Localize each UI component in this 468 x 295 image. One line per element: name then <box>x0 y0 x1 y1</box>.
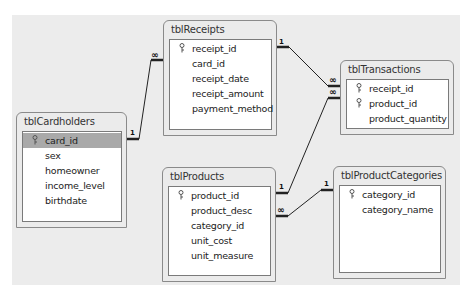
field-list: receipt_id card_id receipt_date receipt_… <box>169 39 272 130</box>
field-receipt-amount[interactable]: receipt_amount <box>170 86 271 101</box>
field-product-desc[interactable]: product_desc <box>169 203 270 218</box>
field-name: product_desc <box>191 205 252 216</box>
field-name: receipt_id <box>192 43 236 54</box>
table-title: tblTransactions <box>348 64 420 75</box>
field-income-level[interactable]: income_level <box>23 178 121 193</box>
field-list: receipt_id product_id product_quantity <box>346 79 449 129</box>
field-category-id[interactable]: category_id <box>169 218 270 233</box>
field-card-id[interactable]: card_id <box>23 133 121 148</box>
field-homeowner[interactable]: homeowner <box>23 163 121 178</box>
field-unit-measure[interactable]: unit_measure <box>169 248 270 263</box>
field-receipt-id[interactable]: receipt_id <box>347 81 448 96</box>
field-name: category_name <box>362 204 433 215</box>
table-title: tblCardholders <box>24 116 95 127</box>
field-payment-method[interactable]: payment_method <box>170 101 271 116</box>
table-receipts[interactable]: tblReceipts receipt_id card_id receipt_d… <box>163 20 277 136</box>
field-name: product_quantity <box>369 113 447 124</box>
field-name: product_id <box>369 98 417 109</box>
primary-key-icon <box>356 83 362 93</box>
table-products[interactable]: tblProducts product_id product_desc cate… <box>162 167 276 282</box>
rel-label-many: ∞ <box>329 89 337 96</box>
primary-key-icon <box>32 135 38 145</box>
field-unit-cost[interactable]: unit_cost <box>169 233 270 248</box>
field-name: payment_method <box>192 103 273 114</box>
rel-label-many: ∞ <box>151 52 159 59</box>
rel-label-one: 1 <box>130 130 135 137</box>
primary-key-icon <box>356 98 362 108</box>
primary-key-icon <box>178 190 184 200</box>
field-category-id[interactable]: category_id <box>340 187 440 202</box>
field-name: category_id <box>362 189 415 200</box>
field-product-id[interactable]: product_id <box>169 188 270 203</box>
table-title: tblProducts <box>170 171 224 182</box>
field-category-name[interactable]: category_name <box>340 202 440 217</box>
primary-key-icon <box>349 189 355 199</box>
field-receipt-id[interactable]: receipt_id <box>170 41 271 56</box>
rel-label-one: 1 <box>324 181 329 188</box>
field-name: category_id <box>191 220 244 231</box>
field-product-id[interactable]: product_id <box>347 96 448 111</box>
rel-label-one: 1 <box>279 184 284 191</box>
field-receipt-date[interactable]: receipt_date <box>170 71 271 86</box>
table-cardholders[interactable]: tblCardholders card_id sex homeowner inc… <box>16 112 127 228</box>
field-name: product_id <box>191 190 239 201</box>
field-name: receipt_amount <box>192 88 264 99</box>
rel-label-many: ∞ <box>329 77 337 84</box>
field-card-id[interactable]: card_id <box>170 56 271 71</box>
field-product-quantity[interactable]: product_quantity <box>347 111 448 126</box>
field-name: card_id <box>192 58 225 69</box>
field-list: product_id product_desc category_id unit… <box>168 186 271 276</box>
table-title: tblReceipts <box>171 24 224 35</box>
field-list: card_id sex homeowner income_level birth… <box>22 131 122 222</box>
primary-key-icon <box>179 43 185 53</box>
table-product-categories[interactable]: tblProductCategories category_id categor… <box>333 166 446 279</box>
table-title: tblProductCategories <box>341 170 442 181</box>
field-name: homeowner <box>45 165 100 176</box>
field-name: unit_measure <box>191 250 253 261</box>
field-birthdate[interactable]: birthdate <box>23 193 121 208</box>
field-sex[interactable]: sex <box>23 148 121 163</box>
field-list: category_id category_name <box>339 185 441 273</box>
table-transactions[interactable]: tblTransactions receipt_id product_id pr… <box>340 60 454 135</box>
rel-label-one: 1 <box>279 39 284 46</box>
rel-label-many: ∞ <box>277 207 285 214</box>
field-name: unit_cost <box>191 235 232 246</box>
field-name: income_level <box>45 180 105 191</box>
field-name: birthdate <box>45 195 87 206</box>
field-name: card_id <box>45 135 78 146</box>
field-name: sex <box>45 150 61 161</box>
field-name: receipt_id <box>369 83 413 94</box>
field-name: receipt_date <box>192 73 249 84</box>
